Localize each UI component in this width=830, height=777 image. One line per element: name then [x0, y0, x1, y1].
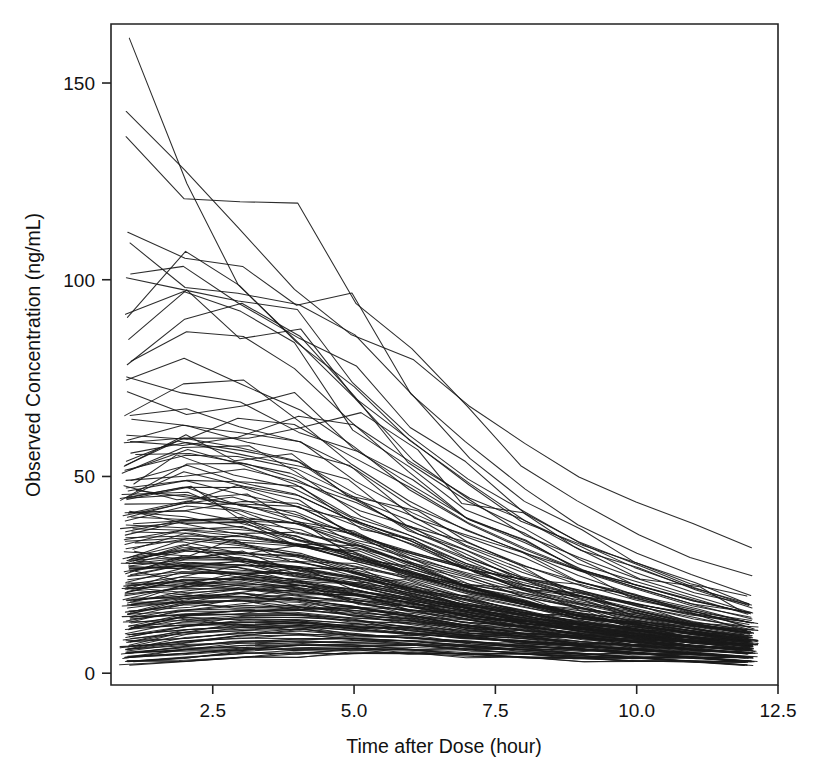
x-tick-label: 7.5 [482, 700, 508, 721]
y-tick-label: 0 [84, 663, 95, 684]
x-tick-label: 10.0 [618, 700, 655, 721]
concentration-time-spaghetti-plot: 050100150 2.55.07.510.012.5 Time after D… [0, 0, 830, 777]
x-axis-title: Time after Dose (hour) [346, 735, 541, 757]
y-tick-label: 50 [74, 466, 95, 487]
y-tick-label: 150 [63, 73, 95, 94]
y-tick-label: 100 [63, 270, 95, 291]
x-tick-label: 2.5 [200, 700, 226, 721]
y-axis-title: Observed Concentration (ng/mL) [22, 213, 44, 497]
x-tick-label: 12.5 [760, 700, 797, 721]
x-tick-label: 5.0 [341, 700, 367, 721]
figure-panel: 050100150 2.55.07.510.012.5 Time after D… [0, 0, 830, 777]
